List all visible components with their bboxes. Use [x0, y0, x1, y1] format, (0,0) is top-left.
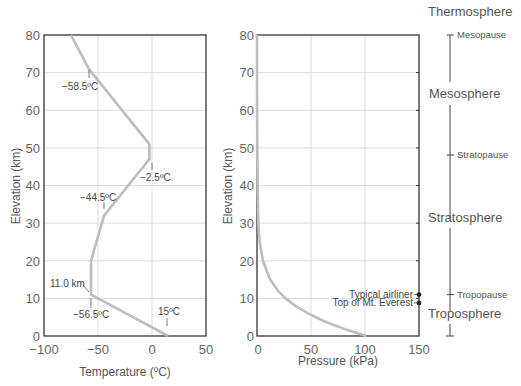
svg-text:60: 60 [240, 103, 254, 118]
troposphere-label: Troposphere [428, 306, 501, 321]
pressure-chart: Typical airliner Top of Mt. Everest 0 10… [221, 28, 430, 368]
svg-text:−100: −100 [29, 342, 58, 357]
svg-text:30: 30 [240, 216, 254, 231]
atmosphere-layers: Thermosphere Mesopause Mesosphere Strato… [428, 4, 513, 336]
tropopause-label: Tropopause [457, 289, 507, 300]
svg-text:40: 40 [26, 178, 40, 193]
svg-text:80: 80 [26, 28, 40, 43]
stratosphere-label: Stratosphere [428, 210, 502, 225]
svg-text:70: 70 [240, 65, 254, 80]
svg-text:30: 30 [26, 216, 40, 231]
temperature-x-ticks: −100 −50 0 50 [29, 342, 213, 357]
svg-text:150: 150 [408, 342, 430, 357]
svg-text:20: 20 [26, 254, 40, 269]
atmosphere-figure: 15ºC 11.0 km −56.5ºC −44.5ºC −2.5ºC −58.… [0, 0, 521, 386]
annotation-11km: 11.0 km [50, 278, 85, 289]
temperature-chart: 15ºC 11.0 km −56.5ºC −44.5ºC −2.5ºC −58.… [9, 28, 213, 379]
svg-text:40: 40 [240, 178, 254, 193]
svg-text:10: 10 [26, 291, 40, 306]
everest-marker-dot [417, 301, 422, 306]
svg-text:10: 10 [240, 291, 254, 306]
pressure-y-ticks: 0 10 20 30 40 50 60 70 80 [240, 28, 254, 344]
mesosphere-label: Mesosphere [429, 86, 501, 101]
svg-text:0: 0 [254, 342, 261, 357]
svg-text:50: 50 [240, 141, 254, 156]
svg-text:20: 20 [240, 254, 254, 269]
svg-text:70: 70 [26, 65, 40, 80]
temperature-x-label: Temperature (ºC) [79, 365, 171, 379]
svg-text:−50: −50 [87, 342, 109, 357]
everest-label: Top of Mt. Everest [332, 297, 413, 308]
annotation-minus-58-5c: −58.5ºC [62, 81, 98, 92]
thermosphere-label: Thermosphere [428, 4, 513, 19]
stratopause-label: Stratopause [457, 149, 508, 160]
svg-text:50: 50 [199, 342, 213, 357]
airliner-marker-dot [417, 292, 422, 297]
mesopause-label: Mesopause [457, 29, 506, 40]
annotation-minus-56-5c: −56.5ºC [73, 309, 109, 320]
temperature-y-ticks: 0 10 20 30 40 50 60 70 80 [26, 28, 40, 344]
svg-text:80: 80 [240, 28, 254, 43]
svg-text:0: 0 [247, 329, 254, 344]
annotation-minus-44-5c: −44.5ºC [80, 192, 116, 203]
svg-text:0: 0 [148, 342, 155, 357]
annotation-minus-2-5c: −2.5ºC [140, 172, 171, 183]
temperature-y-label: Elevation (km) [9, 148, 23, 225]
annotation-15c: 15ºC [158, 306, 180, 317]
pressure-y-label: Elevation (km) [221, 148, 235, 225]
pressure-x-label: Pressure (kPa) [298, 354, 378, 368]
svg-text:50: 50 [26, 141, 40, 156]
svg-text:60: 60 [26, 103, 40, 118]
